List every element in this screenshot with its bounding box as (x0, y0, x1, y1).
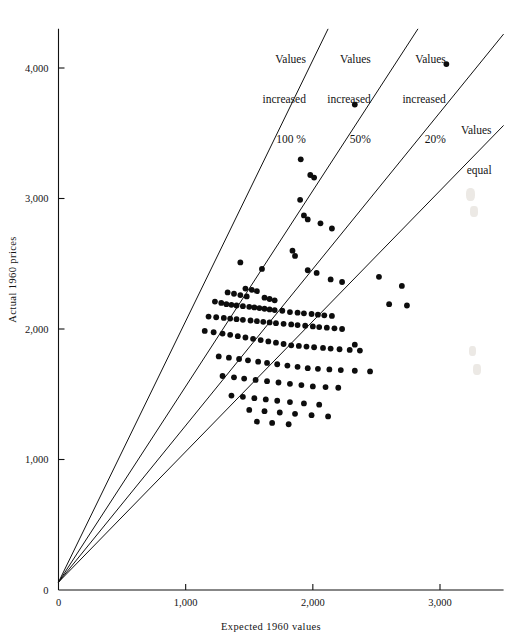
data-point (339, 279, 345, 285)
data-point (324, 325, 330, 331)
data-point (272, 307, 278, 313)
data-point (352, 342, 358, 348)
data-point (321, 312, 327, 318)
data-point (287, 381, 293, 387)
data-point (218, 300, 224, 306)
data-point (264, 378, 270, 384)
data-point (311, 344, 317, 350)
annotation-line-2: increased (244, 93, 306, 106)
data-point (399, 283, 405, 289)
data-point (225, 290, 231, 296)
data-point (264, 360, 270, 366)
y-tick-label: 0 (43, 585, 48, 596)
data-point (281, 321, 287, 327)
data-point (206, 314, 212, 320)
data-point (296, 343, 302, 349)
y-tick-label: 3,000 (25, 193, 49, 204)
data-point (386, 301, 392, 307)
y-tick-label: 1,000 (25, 454, 49, 465)
data-point (287, 309, 293, 315)
data-point (273, 340, 279, 346)
data-point (245, 357, 251, 363)
data-point (286, 421, 292, 427)
paper-smudge-c (469, 346, 476, 356)
data-point (314, 270, 320, 276)
data-point (254, 288, 260, 294)
data-point (257, 305, 263, 311)
data-point (254, 419, 260, 425)
data-point (259, 266, 265, 272)
data-point (318, 220, 324, 226)
y-tick-label: 2,000 (25, 324, 49, 335)
data-point (301, 400, 307, 406)
data-point (237, 292, 243, 298)
data-point (269, 420, 275, 426)
annotation-line-2: increased (309, 93, 371, 106)
data-point (235, 333, 241, 339)
data-point (357, 348, 363, 354)
data-point (213, 314, 219, 320)
annotation-line-3: 50% (309, 133, 371, 146)
data-point (302, 323, 308, 329)
x-tick-label: 2,000 (301, 597, 325, 608)
y-tick-label: 4,000 (25, 63, 49, 74)
data-point (292, 253, 298, 259)
annotation-line-2: equal (430, 164, 492, 177)
data-point (347, 347, 353, 353)
data-point (281, 341, 287, 347)
data-point (276, 380, 282, 386)
data-point (295, 322, 301, 328)
data-point (298, 382, 304, 388)
data-point (277, 410, 283, 416)
data-point (274, 398, 280, 404)
x-tick-label: 1,000 (174, 597, 198, 608)
data-point (234, 316, 240, 322)
data-point (325, 414, 331, 420)
annotation-line-1: Values (384, 53, 446, 66)
data-point (329, 226, 335, 232)
data-point (234, 303, 240, 309)
data-point (288, 342, 294, 348)
paper-smudge-b (470, 206, 478, 217)
scatter-plot-figure: 01,0002,0003,00001,0002,0003,0004,000 Ex… (0, 0, 506, 638)
data-point (335, 385, 341, 391)
data-point (274, 361, 280, 367)
data-point (229, 302, 235, 308)
paper-smudge-d (473, 364, 481, 375)
data-point (258, 337, 264, 343)
data-point (316, 324, 322, 330)
data-point (223, 301, 229, 307)
data-point (309, 412, 315, 418)
data-point (337, 346, 343, 352)
data-point (310, 384, 316, 390)
data-point (237, 260, 243, 266)
data-point (251, 305, 257, 311)
data-point (253, 377, 259, 383)
data-point (240, 303, 246, 309)
data-point (329, 313, 335, 319)
data-point (248, 318, 254, 324)
data-point (323, 384, 329, 390)
data-point (231, 291, 237, 297)
data-point (244, 293, 250, 299)
data-point (328, 346, 334, 352)
data-point (328, 277, 334, 283)
data-point (338, 367, 344, 373)
data-point (202, 328, 208, 334)
data-point (227, 316, 233, 322)
data-point (246, 304, 252, 310)
data-point (304, 344, 310, 350)
data-point (249, 287, 255, 293)
data-point (301, 310, 307, 316)
data-point (310, 323, 316, 329)
data-point (262, 408, 268, 414)
data-point (211, 329, 217, 335)
data-point (220, 331, 226, 337)
data-point (236, 356, 242, 362)
data-point (285, 363, 291, 369)
data-point (295, 364, 301, 370)
data-point (332, 325, 338, 331)
data-point (260, 319, 266, 325)
x-axis-title: Expected 1960 values (221, 621, 321, 632)
data-point (305, 267, 311, 273)
